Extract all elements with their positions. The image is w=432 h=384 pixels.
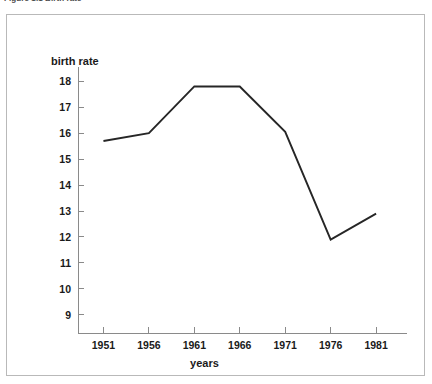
x-tick-label: 1951 [92,339,116,351]
x-tick-label: 1961 [183,339,207,351]
y-tick-label: 9 [65,309,71,321]
x-tick-label: 1966 [228,339,252,351]
line-chart: birth rate 9101112131415161718 195119561… [7,15,424,375]
birth-rate-series-line [103,86,376,239]
x-tick-label: 1976 [319,339,343,351]
y-tick-label: 13 [59,205,71,217]
x-tick-label: 1981 [364,339,388,351]
y-tick-label: 10 [59,283,71,295]
y-tick-label: 15 [59,153,71,165]
figure-caption: Figure 1.1 Birth rate [4,0,82,3]
x-tick-label: 1971 [274,339,298,351]
y-tick-label: 12 [59,231,71,243]
x-axis-title-wrapper: years [7,357,426,369]
x-axis-title: years [190,357,219,369]
figure-frame: birth rate 9101112131415161718 195119561… [6,14,425,376]
y-tick-label: 16 [59,127,71,139]
y-tick-label: 18 [59,75,71,87]
y-tick-label: 17 [59,101,71,113]
x-axis-ticks: 1951195619611966197119761981 [92,327,388,351]
chart-plot-area: 9101112131415161718 19511956196119661971… [7,15,426,377]
y-axis-ticks: 9101112131415161718 [59,75,84,321]
y-tick-label: 14 [59,179,71,191]
y-tick-label: 11 [60,257,71,269]
figure-caption-strip: Figure 1.1 Birth rate [0,0,432,9]
x-tick-label: 1956 [137,339,161,351]
